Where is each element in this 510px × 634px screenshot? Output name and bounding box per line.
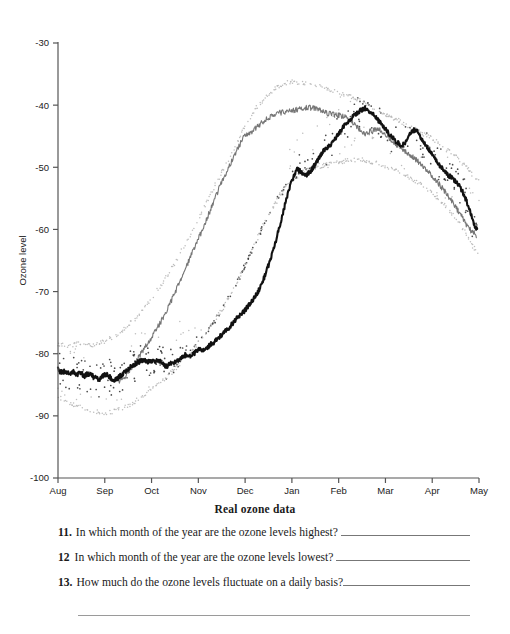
question-text: How much do the ozone levels fluctuate o… xyxy=(77,576,344,589)
x-tick-label: Nov xyxy=(190,485,207,496)
y-tick-label: -60 xyxy=(35,224,49,235)
y-tick-label: -40 xyxy=(35,100,49,111)
ozone-chart-svg: -30-40-50-60-70-80-90-100AugSepOctNovDec… xyxy=(0,0,510,500)
x-tick-label: May xyxy=(470,485,488,496)
question-number: 13. xyxy=(58,576,73,589)
chart-axis-labels: -30-40-50-60-70-80-90-100AugSepOctNovDec… xyxy=(17,37,488,496)
question-item: 13. How much do the ozone levels fluctua… xyxy=(58,574,470,589)
question-item: 12 In which month of the year are the oz… xyxy=(58,549,470,564)
y-tick-label: -90 xyxy=(35,410,49,421)
y-tick-label: -70 xyxy=(35,286,49,297)
ozone-chart: -30-40-50-60-70-80-90-100AugSepOctNovDec… xyxy=(0,0,510,500)
y-tick-label: -80 xyxy=(35,348,49,359)
answer-blank[interactable] xyxy=(341,524,470,536)
x-tick-label: Oct xyxy=(144,485,159,496)
question-item: 11. In which month of the year are the o… xyxy=(58,524,470,539)
answer-rule-line[interactable] xyxy=(78,615,470,616)
main-ozone-line xyxy=(58,106,477,381)
secondary-trace-line xyxy=(119,105,477,383)
x-tick-label: Jan xyxy=(284,485,299,496)
daily-scatter-points xyxy=(57,96,480,410)
x-tick-label: Apr xyxy=(425,485,440,496)
question-number: 11. xyxy=(58,526,72,539)
x-tick-label: Sep xyxy=(96,485,113,496)
question-text: In which month of the year are the ozone… xyxy=(76,526,338,539)
ozone-series-lines xyxy=(58,105,477,383)
worksheet-page: -30-40-50-60-70-80-90-100AugSepOctNovDec… xyxy=(0,0,510,634)
chart-axes xyxy=(53,42,479,483)
x-tick-label: Aug xyxy=(50,485,67,496)
answer-blank[interactable] xyxy=(343,574,470,586)
chart-title: Real ozone data xyxy=(0,503,510,515)
question-number: 12 xyxy=(58,551,70,564)
y-tick-label: -50 xyxy=(35,162,49,173)
question-text: In which month of the year are the ozone… xyxy=(75,551,334,564)
question-list: 11. In which month of the year are the o… xyxy=(58,524,470,599)
x-tick-label: Feb xyxy=(330,485,346,496)
y-axis-title: Ozone level xyxy=(17,235,28,285)
y-tick-label: -30 xyxy=(35,37,49,48)
answer-blank[interactable] xyxy=(336,549,470,561)
x-tick-label: Mar xyxy=(377,485,393,496)
y-tick-label: -100 xyxy=(30,472,49,483)
x-tick-label: Dec xyxy=(237,485,254,496)
